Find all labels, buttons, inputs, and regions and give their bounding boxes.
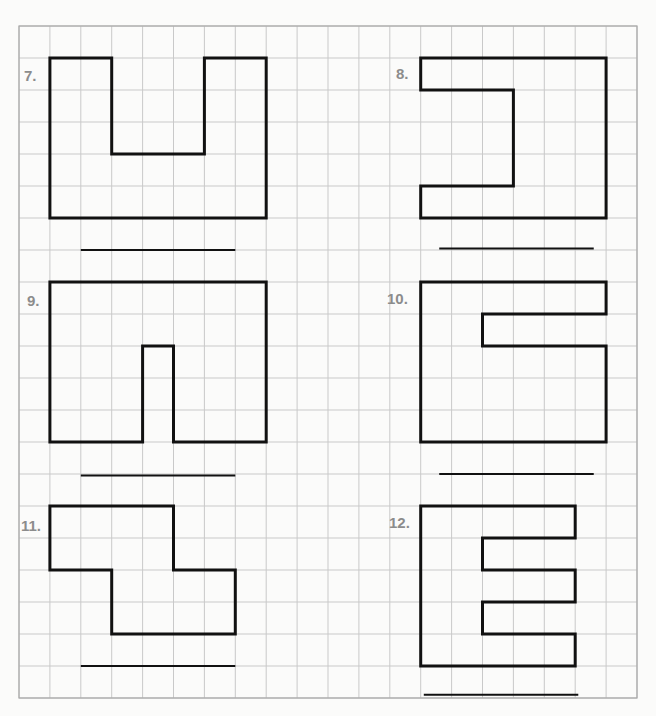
grid-worksheet: 7. 8. 9. 10. 11. 12. (0, 0, 656, 716)
problem-number-label: 11. (21, 517, 41, 534)
rectilinear-figure (421, 506, 576, 666)
problem-number-label: 10. (387, 290, 408, 307)
problem-11: 11. (21, 506, 235, 666)
problem-number-label: 12. (389, 514, 410, 531)
problem-number-label: 7. (24, 67, 37, 84)
problem-8: 8. (396, 58, 606, 248)
problem-9: 9. (27, 282, 266, 476)
problem-number-label: 8. (396, 65, 409, 82)
problem-number-label: 9. (27, 292, 40, 309)
rectilinear-figure (50, 58, 266, 218)
rectilinear-figure (50, 282, 266, 442)
